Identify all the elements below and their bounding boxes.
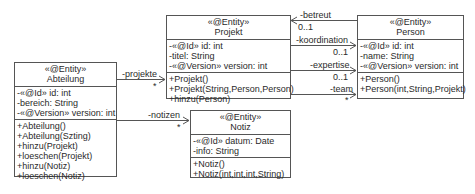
multiplicity-expertise: 0..1: [333, 72, 348, 82]
class-header: «@Entity» Notiz: [191, 111, 290, 135]
attribute: -info: String: [193, 146, 288, 156]
role-notizen: -notizen: [148, 110, 180, 120]
attribute: -«@Version» version: int: [360, 61, 461, 71]
operation: +loeschen(Projekt): [17, 151, 114, 161]
operations-section: +Person() +Person(int,String,Projekt): [358, 72, 463, 95]
attribute: -name: String: [360, 51, 461, 61]
class-name: Notiz: [191, 123, 290, 133]
attribute: -«@Version» version: int: [169, 61, 288, 71]
attribute: -bereich: String: [17, 98, 114, 108]
class-header: «@Entity» Abteilung: [15, 63, 116, 87]
multiplicity-betreut: 0..1: [298, 22, 313, 32]
operation: +Abteilung(Szting): [17, 131, 114, 141]
class-abteilung[interactable]: «@Entity» Abteilung -«@Id» id: int -bere…: [14, 62, 117, 177]
operation: +Projekt(): [169, 74, 288, 84]
attributes-section: -«@Id» id: int -name: String -«@Version»…: [358, 40, 463, 72]
operation: +Abteilung(): [17, 121, 114, 131]
operations-section: +Abteilung() +Abteilung(Szting) +hinzu(P…: [15, 119, 116, 182]
class-name: Person: [358, 28, 463, 38]
operations-section: +Notiz() +Notiz(int,int,int,String): [191, 157, 290, 180]
class-name: Abteilung: [15, 75, 116, 85]
multiplicity-notizen: *: [177, 122, 181, 132]
class-person[interactable]: «@Entity» Person -«@Id» id: int -name: S…: [357, 15, 464, 99]
attributes-section: -«@Id» id: int -bereich: String -«@Versi…: [15, 87, 116, 119]
operation: +Notiz(): [193, 159, 288, 169]
operation: +Person(int,String,Projekt): [360, 84, 461, 94]
operation: +Person(): [360, 74, 461, 84]
class-projekt[interactable]: «@Entity» Projekt -«@Id» id: int -titel:…: [166, 15, 291, 99]
class-notiz[interactable]: «@Entity» Notiz -«@Id» datum: Date -info…: [190, 110, 291, 178]
class-header: «@Entity» Projekt: [167, 16, 290, 40]
attributes-section: -«@Id» id: int -titel: String -«@Version…: [167, 40, 290, 72]
operation: +hinzu(Person): [169, 94, 288, 104]
attribute: -«@Id» datum: Date: [193, 136, 288, 146]
operation: +hinzu(Projekt): [17, 141, 114, 151]
role-projekte: -projekte: [122, 69, 157, 79]
operation: +loeschen(Notiz): [17, 171, 114, 181]
attributes-section: -«@Id» datum: Date -info: String: [191, 135, 290, 157]
attribute: -«@Id» id: int: [169, 41, 288, 51]
operation: +hinzu(Notiz): [17, 161, 114, 171]
attribute: -titel: String: [169, 51, 288, 61]
multiplicity-projekte: *: [153, 81, 157, 91]
operations-section: +Projekt() +Projekt(String,Person,Person…: [167, 72, 290, 105]
attribute: -«@Id» id: int: [360, 41, 461, 51]
operation: +Notiz(int,int,int,String): [193, 169, 288, 179]
role-betreut: -betreut: [300, 10, 331, 20]
attribute: -«@Id» id: int: [17, 88, 114, 98]
multiplicity-koordination: 0..1: [333, 47, 348, 57]
multiplicity-team: *: [345, 95, 349, 105]
class-header: «@Entity» Person: [358, 16, 463, 40]
class-name: Projekt: [167, 28, 290, 38]
role-team: -team: [330, 84, 353, 94]
operation: +Projekt(String,Person,Person): [169, 84, 288, 94]
role-koordination: -koordination: [296, 35, 348, 45]
attribute: -«@Version» version: int: [17, 108, 114, 118]
role-expertise: -expertise: [310, 60, 350, 70]
